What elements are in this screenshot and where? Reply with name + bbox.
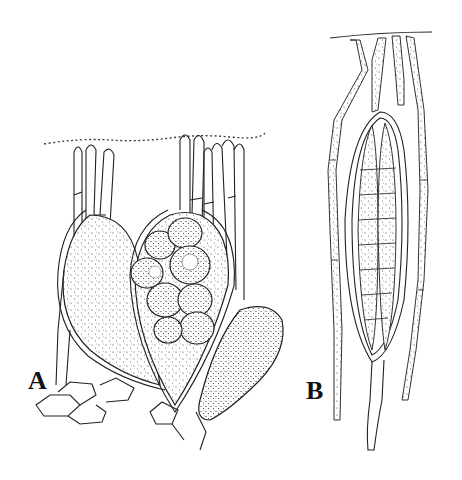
illustration-drawing bbox=[0, 0, 462, 480]
panel-label-b: B bbox=[306, 378, 323, 404]
panel-b-drawing bbox=[328, 32, 432, 450]
panel-a-drawing bbox=[36, 133, 283, 450]
panel-label-a: A bbox=[28, 368, 47, 394]
scientific-illustration: A B bbox=[0, 0, 462, 480]
